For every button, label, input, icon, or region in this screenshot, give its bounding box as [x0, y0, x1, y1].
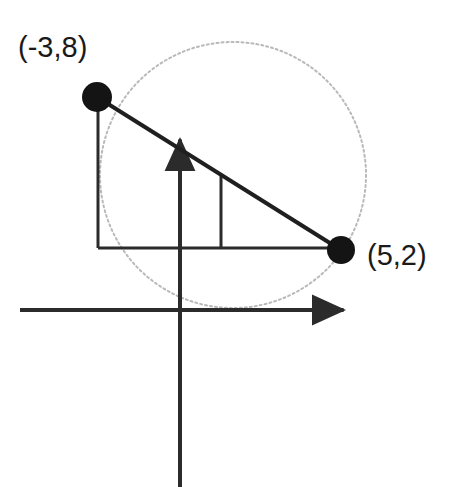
point-label-b: (5,2) [367, 241, 427, 270]
geometry-figure: (-3,8) (5,2) [0, 0, 452, 487]
point-marker-b[interactable] [327, 236, 355, 264]
point-label-a: (-3,8) [18, 33, 87, 62]
diameter-segment-line [97, 97, 341, 250]
point-marker-a[interactable] [82, 82, 112, 112]
circle-outline [100, 42, 366, 308]
